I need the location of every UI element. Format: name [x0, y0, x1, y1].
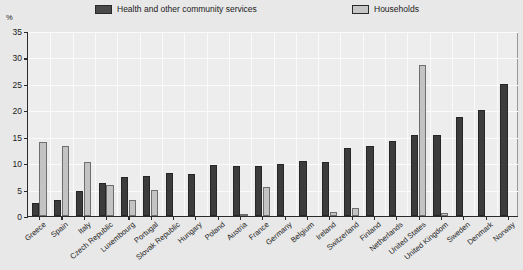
y-axis-tick-label: 5 [17, 186, 22, 196]
y-axis-tick-label: 35 [13, 27, 22, 37]
x-axis-labels: GreeceSpainItalyCzech RepublicLuxembourg… [27, 218, 518, 270]
bar-households [39, 142, 46, 216]
bar-health [500, 84, 507, 216]
bar-health [32, 203, 39, 216]
y-axis-tick [24, 138, 28, 139]
y-axis-tick-label: 30 [13, 53, 22, 63]
y-axis-tick [24, 58, 28, 59]
y-axis-tick-label: 10 [13, 159, 22, 169]
y-axis-tick [24, 164, 28, 165]
bar-group [363, 32, 385, 216]
y-axis-tick-label: 20 [13, 106, 22, 116]
bar-group [340, 32, 362, 216]
bar-group [251, 32, 273, 216]
bar-group [73, 32, 95, 216]
bar-health [99, 183, 106, 216]
bar-group [452, 32, 474, 216]
y-axis-tick-label: 15 [13, 133, 22, 143]
x-axis-tick-label: Italy [76, 220, 92, 236]
y-axis-tick [24, 111, 28, 112]
bar-groups [28, 32, 518, 216]
y-axis-tick [24, 191, 28, 192]
legend-swatch-light-icon [352, 5, 369, 14]
y-axis-tick [24, 32, 28, 33]
y-axis-tick [24, 85, 28, 86]
bar-households [106, 185, 113, 216]
legend-label-health: Health and other community services [117, 4, 257, 14]
bar-group [497, 32, 519, 216]
bar-group [117, 32, 139, 216]
bar-group [318, 32, 340, 216]
legend-swatch-dark-icon [95, 5, 112, 14]
bar-group [385, 32, 407, 216]
bar-group [162, 32, 184, 216]
bar-group [430, 32, 452, 216]
legend-label-households: Households [374, 4, 419, 14]
legend-item-health: Health and other community services [95, 4, 257, 14]
bar-households [419, 65, 426, 216]
bar-group [407, 32, 429, 216]
bar-group [95, 32, 117, 216]
bar-group [296, 32, 318, 216]
bar-group [184, 32, 206, 216]
bar-group [50, 32, 72, 216]
y-axis-unit-label: % [6, 13, 13, 22]
plot-background: 05101520253035 [27, 32, 518, 217]
bar-chart: Health and other community services Hous… [0, 0, 523, 270]
y-axis-tick-label: 25 [13, 80, 22, 90]
chart-legend: Health and other community services Hous… [0, 4, 523, 20]
bar-group [274, 32, 296, 216]
bar-households [84, 162, 91, 216]
legend-item-households: Households [352, 4, 419, 14]
bar-group [229, 32, 251, 216]
plot-area: 05101520253035 [27, 32, 518, 217]
x-axis-tick-label: Greece [23, 220, 48, 243]
bar-group [28, 32, 50, 216]
y-axis-tick-label: 0 [17, 212, 22, 222]
x-axis-tick-label: Spain [50, 220, 71, 239]
